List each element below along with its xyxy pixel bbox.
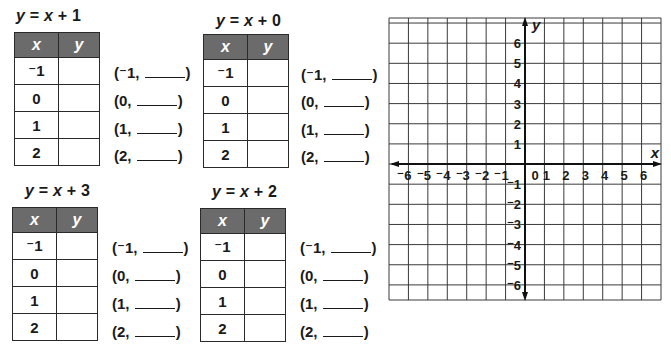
answer-blank[interactable]	[137, 93, 177, 106]
xy-table: x y ⁻1 0 1 2	[203, 34, 289, 168]
x-cell: 2	[13, 314, 57, 341]
ordered-pair: (0, )	[112, 267, 181, 284]
y-tick-label: ⁻1	[507, 177, 521, 192]
x-axis-label: x	[650, 144, 660, 161]
y-input-cell[interactable]	[248, 141, 289, 168]
y-input-cell[interactable]	[248, 87, 289, 114]
x-cell: 0	[201, 261, 245, 288]
ordered-pair: (1, )	[300, 295, 369, 312]
ordered-pair: (2, )	[112, 323, 181, 340]
y-tick-label: 2	[514, 117, 521, 132]
x-tick-label: ⁻5	[417, 168, 431, 183]
table-row: 0	[15, 85, 100, 112]
y-tick-label: ⁻3	[507, 217, 521, 232]
coordinate-plane[interactable]: xy⁻6⁻5⁻4⁻3⁻2⁻10123456654321⁻1⁻2⁻3⁻4⁻5⁻6	[384, 10, 671, 305]
equation-title: y = x + 0	[216, 12, 281, 30]
x-cell: 0	[13, 260, 57, 287]
table-row: ⁻1	[15, 58, 100, 85]
answer-blank[interactable]	[145, 65, 185, 78]
y-input-cell[interactable]	[59, 139, 100, 166]
x-cell: 0	[204, 87, 248, 114]
header-x: x	[13, 208, 57, 233]
x-cell: ⁻1	[15, 58, 59, 85]
x-cell: 2	[204, 141, 248, 168]
answer-blank[interactable]	[323, 324, 363, 337]
x-cell: 1	[15, 112, 59, 139]
ordered-pair: (0, )	[114, 92, 183, 109]
y-input-cell[interactable]	[248, 60, 289, 87]
x-cell: ⁻1	[201, 234, 245, 261]
y-input-cell[interactable]	[57, 233, 98, 260]
header-y: y	[59, 33, 100, 58]
y-tick-label: 5	[514, 56, 521, 71]
table-row: 1	[13, 287, 98, 314]
y-input-cell[interactable]	[59, 58, 100, 85]
answer-blank[interactable]	[323, 268, 363, 281]
equation-title: y = x + 3	[25, 182, 90, 200]
answer-blank[interactable]	[324, 122, 364, 135]
answer-blank[interactable]	[137, 121, 177, 134]
header-x: x	[204, 35, 248, 60]
y-input-cell[interactable]	[245, 261, 286, 288]
y-input-cell[interactable]	[245, 315, 286, 342]
y-tick-label: ⁻6	[507, 278, 521, 293]
x-tick-label: 4	[601, 168, 609, 183]
x-tick-label: ⁻6	[397, 168, 411, 183]
x-tick-label: ⁻4	[436, 168, 451, 183]
table-block-y-equals-x-plus-0: y = x + 0 x y ⁻1 0 1 2 (⁻1, ) (0, ) (1, …	[190, 0, 380, 172]
answer-blank[interactable]	[323, 296, 363, 309]
table-row: 0	[201, 261, 286, 288]
table-row: 0	[204, 87, 289, 114]
y-input-cell[interactable]	[248, 114, 289, 141]
answer-blank[interactable]	[324, 149, 364, 162]
answer-blank[interactable]	[331, 240, 371, 253]
answer-blank[interactable]	[135, 296, 175, 309]
answer-blank[interactable]	[332, 67, 372, 80]
table-row: 2	[13, 314, 98, 341]
x-tick-label: 3	[582, 168, 589, 183]
header-y: y	[248, 35, 289, 60]
x-cell: 1	[204, 114, 248, 141]
y-input-cell[interactable]	[245, 234, 286, 261]
x-tick-label: 0	[531, 168, 538, 183]
x-cell: 1	[201, 288, 245, 315]
ordered-pair: (⁻1, )	[300, 239, 377, 257]
answer-blank[interactable]	[135, 324, 175, 337]
y-tick-label: 6	[514, 36, 521, 51]
y-input-cell[interactable]	[57, 314, 98, 341]
x-cell: 2	[201, 315, 245, 342]
y-tick-label: ⁻5	[507, 258, 521, 273]
xy-table: x y ⁻1 0 1 2	[14, 32, 100, 166]
y-input-cell[interactable]	[59, 85, 100, 112]
x-cell: ⁻1	[13, 233, 57, 260]
x-cell: 2	[15, 139, 59, 166]
x-tick-label: 1	[543, 168, 550, 183]
table-row: 0	[13, 260, 98, 287]
ordered-pair: (⁻1, )	[301, 66, 378, 84]
x-cell: 1	[13, 287, 57, 314]
answer-blank[interactable]	[324, 94, 364, 107]
ordered-pair: (0, )	[301, 93, 370, 110]
y-tick-label: 1	[514, 137, 521, 152]
x-tick-label: ⁻3	[456, 168, 470, 183]
table-row: 1	[204, 114, 289, 141]
x-tick-label: 5	[621, 168, 628, 183]
table-row: 2	[201, 315, 286, 342]
x-axis-left-arrow-icon	[390, 161, 399, 167]
answer-blank[interactable]	[143, 240, 183, 253]
y-axis-label: y	[531, 16, 541, 33]
x-tick-label: ⁻2	[475, 168, 489, 183]
table-row: 2	[204, 141, 289, 168]
ordered-pair: (1, )	[301, 121, 370, 138]
coordinate-grid[interactable]: xy⁻6⁻5⁻4⁻3⁻2⁻10123456654321⁻1⁻2⁻3⁻4⁻5⁻6	[384, 10, 671, 305]
y-input-cell[interactable]	[245, 288, 286, 315]
answer-blank[interactable]	[135, 268, 175, 281]
y-input-cell[interactable]	[59, 112, 100, 139]
answer-blank[interactable]	[137, 148, 177, 161]
header-x: x	[15, 33, 59, 58]
y-input-cell[interactable]	[57, 260, 98, 287]
table-block-y-equals-x-plus-1: y = x + 1 x y ⁻1 0 1 2 (⁻1, ) (0, ) (1, …	[0, 0, 190, 172]
y-input-cell[interactable]	[57, 287, 98, 314]
equation-title: y = x + 1	[16, 7, 81, 25]
ordered-pair: (1, )	[112, 295, 181, 312]
